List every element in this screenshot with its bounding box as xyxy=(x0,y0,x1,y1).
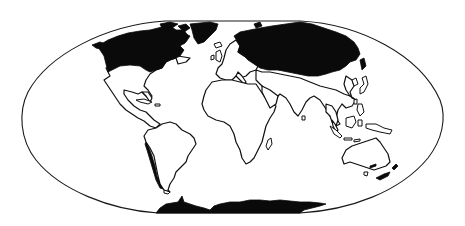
world-map xyxy=(0,0,465,226)
caspian-mark xyxy=(268,65,274,68)
new-zealand-north xyxy=(392,164,398,170)
sulawesi xyxy=(358,120,362,126)
borneo xyxy=(346,116,356,128)
arctic-islands-1 xyxy=(160,22,178,28)
tasmania xyxy=(364,172,368,176)
hispaniola xyxy=(155,104,160,106)
iceland xyxy=(214,42,222,48)
canada xyxy=(98,26,190,72)
new-zealand-south xyxy=(376,172,390,180)
antarctica xyxy=(156,196,326,213)
kamchatka xyxy=(360,58,366,70)
world-map-svg xyxy=(0,0,465,226)
alaska xyxy=(92,42,106,50)
taiwan xyxy=(354,99,357,104)
java xyxy=(344,138,352,140)
aral-mark xyxy=(278,67,284,70)
japan xyxy=(360,76,368,94)
australia xyxy=(342,138,390,170)
sri-lanka xyxy=(302,116,305,120)
new-guinea xyxy=(366,124,392,134)
lesser-sundas xyxy=(354,139,360,142)
philippines xyxy=(357,104,364,116)
madagascar xyxy=(266,138,272,150)
great-britain xyxy=(216,50,222,62)
novaya-zemlya xyxy=(254,22,262,28)
ireland xyxy=(211,55,214,60)
greenland xyxy=(190,22,218,44)
